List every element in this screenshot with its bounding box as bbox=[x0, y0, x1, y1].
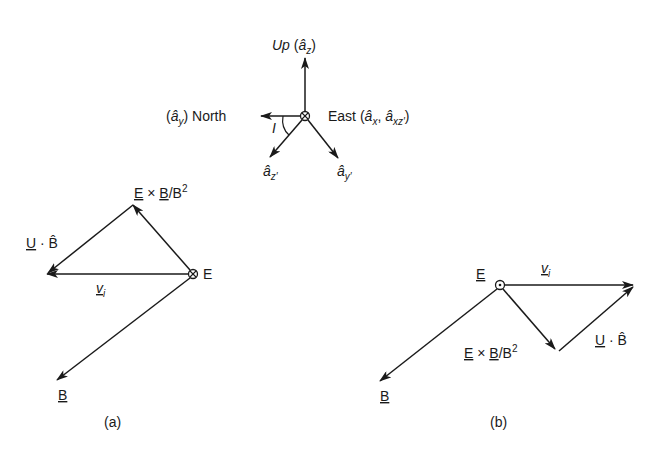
exb-label-a: E × B/B2 bbox=[134, 183, 188, 201]
vi-label-a: vi bbox=[96, 280, 106, 299]
vi-label-b: vi bbox=[541, 260, 551, 279]
caption-b: (b) bbox=[490, 414, 507, 430]
yprime-axis-arrow bbox=[308, 120, 338, 158]
axes-diagram: Up (âz) (ây) North East (âx, âxz′) I âz′… bbox=[166, 37, 410, 182]
ub-label-a: U · B̂ bbox=[26, 235, 58, 251]
exb-label-b: E × B/B2 bbox=[464, 343, 518, 361]
inclination-angle-arc bbox=[283, 116, 289, 135]
b-label-a: B bbox=[58, 387, 67, 403]
inclination-angle-label: I bbox=[272, 120, 276, 136]
up-label: Up (âz) bbox=[272, 37, 316, 56]
ub-label-b: U · B̂ bbox=[595, 332, 627, 348]
north-label: (ây) North bbox=[166, 108, 226, 127]
vector-diagram: Up (âz) (ây) North East (âx, âxz′) I âz′… bbox=[0, 0, 656, 454]
exb-drift-arrow-b bbox=[503, 289, 555, 349]
e-label-b: E bbox=[476, 266, 485, 282]
cross-in-circle-icon bbox=[189, 270, 198, 279]
b-field-arrow-b bbox=[380, 289, 497, 381]
zprime-label: âz′ bbox=[263, 163, 279, 182]
caption-a: (a) bbox=[104, 414, 121, 430]
e-label-a: E bbox=[203, 266, 212, 282]
ub-parallel-arrow-a bbox=[48, 205, 133, 273]
east-label: East (âx, âxz′) bbox=[328, 108, 410, 127]
b-label-b: B bbox=[380, 388, 389, 404]
cross-in-circle-icon bbox=[301, 112, 310, 121]
panel-b: E vi E × B/B2 U · B̂ B (b) bbox=[380, 260, 633, 430]
b-field-arrow-a bbox=[57, 278, 190, 380]
exb-drift-arrow-a bbox=[133, 205, 190, 270]
panel-a: E × B/B2 U · B̂ vi E B (a) bbox=[26, 183, 212, 430]
yprime-label: ây′ bbox=[337, 163, 353, 182]
dot-in-circle-icon bbox=[496, 281, 505, 290]
